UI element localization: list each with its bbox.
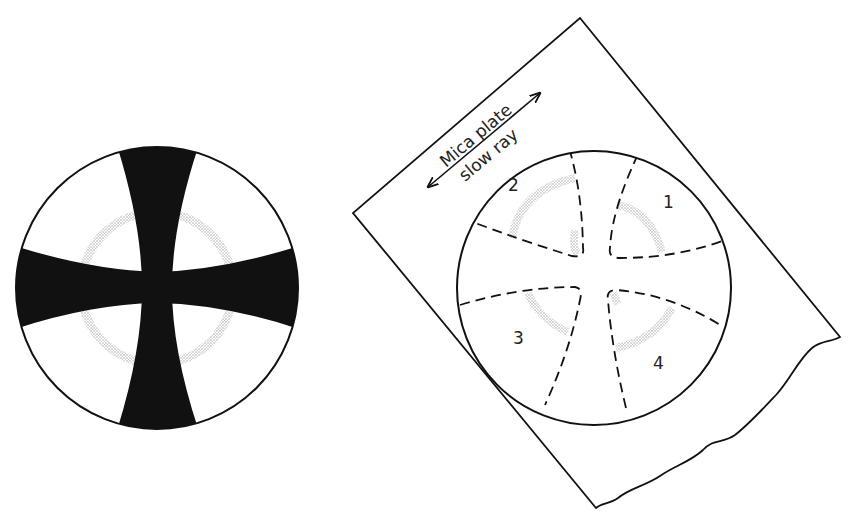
quadrant-label-1: 1 — [663, 192, 674, 212]
quadrant-label-3: 3 — [513, 328, 524, 348]
diagram-canvas: 1 2 3 4 Mica plate slow ray — [0, 0, 854, 518]
interference-figure-right: 1 2 3 4 Mica plate slow ray — [353, 18, 840, 508]
field-of-view-right — [457, 151, 731, 425]
quadrant-label-4: 4 — [653, 353, 664, 373]
quadrant-label-2: 2 — [508, 175, 519, 195]
interference-figure-left — [12, 130, 302, 446]
